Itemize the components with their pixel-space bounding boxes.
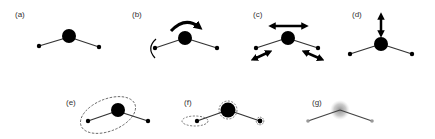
molecule-diagram-figure: (a) (b) (c) (d) [0,0,435,139]
rotation-arrow-icon [171,22,199,31]
central-atom [374,37,388,51]
panel-a: (a) [15,10,101,49]
panel-e: (e) [66,89,150,139]
panel-c-label: (c) [253,10,263,19]
terminal-atom-right [410,52,414,56]
central-atom [178,31,192,45]
terminal-atom-left [153,46,157,50]
panel-b-label: (b) [132,10,142,19]
panel-g-label: (g) [312,98,322,107]
panel-d-label: (d) [352,10,362,19]
central-atom [221,103,236,118]
panel-c: (c) [253,10,321,59]
central-atom [62,29,76,43]
central-atom [281,31,295,45]
terminal-atom-left [254,46,258,50]
panel-f-label: (f) [184,98,192,107]
panel-f: (f) [182,98,264,126]
terminal-atom-left [195,119,199,123]
terminal-atom-left [37,44,41,48]
terminal-atom-right [370,119,374,123]
terminal-atom-left [306,119,310,123]
terminal-atom-right [146,119,150,123]
diagonal-double-arrow-right-icon [305,52,321,59]
panel-g: (g) [306,98,374,123]
terminal-atom-left [348,52,352,56]
panel-b: (b) [132,10,219,58]
terminal-atom-right [316,46,320,50]
diagonal-double-arrow-left-icon [254,52,269,59]
panel-a-label: (a) [15,10,25,19]
terminal-atom-right [258,119,263,124]
terminal-atom-left [86,119,90,123]
central-atom [111,103,125,117]
terminal-atom-right [97,45,101,49]
panel-e-label: (e) [66,98,76,107]
terminal-atom-right [215,46,219,50]
panel-d: (d) [348,10,414,56]
